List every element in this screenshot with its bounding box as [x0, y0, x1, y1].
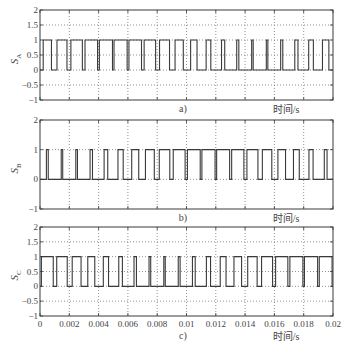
x-tick-label: 0.016	[264, 319, 285, 329]
y-axis-label: SC	[8, 270, 23, 281]
y-tick-label: 0.5	[27, 267, 39, 277]
y-tick-label: −1	[28, 311, 38, 321]
y-axis-label: SA	[8, 54, 23, 65]
y-tick-label: 0.5	[27, 50, 39, 60]
y-tick-label: −0.5	[22, 80, 39, 90]
x-tick-label: 0.018	[294, 319, 315, 329]
y-tick-label: 2	[34, 115, 39, 125]
y-tick-label: 2	[34, 222, 39, 232]
grid	[40, 120, 333, 209]
y-axis-label: SB	[8, 163, 23, 174]
x-axis-label: 时间/s	[273, 330, 300, 342]
panel-b: −1012SBb)时间/s	[8, 115, 333, 224]
panel-c: −1−0.500.511.5200.0020.0040.0060.0080.01…	[8, 222, 341, 342]
panel-label: a)	[179, 103, 187, 115]
pwm-switching-figure: −1−0.500.511.52SAa)时间/s−1012SBb)时间/s−1−0…	[0, 0, 350, 354]
y-tick-label: 1	[34, 252, 39, 262]
y-tick-label: 0	[34, 281, 39, 291]
x-tick-label: 0.008	[147, 319, 168, 329]
y-tick-label: 0	[34, 65, 39, 75]
y-tick-label: −1	[28, 204, 38, 214]
x-tick-label: 0.006	[118, 319, 139, 329]
x-tick-label: 0.01	[179, 319, 195, 329]
panel-a: −1−0.500.511.52SAa)时间/s	[8, 5, 333, 115]
panel-label: c)	[179, 330, 187, 342]
grid	[40, 10, 333, 100]
y-tick-label: 1	[34, 35, 39, 45]
y-tick-label: 0	[34, 174, 39, 184]
x-tick-label: 0.002	[59, 319, 79, 329]
x-axis-label: 时间/s	[273, 212, 300, 224]
x-axis-label: 时间/s	[273, 103, 300, 115]
x-tick-label: 0.012	[206, 319, 226, 329]
y-tick-label: 2	[34, 5, 39, 15]
panel-label: b)	[179, 212, 187, 224]
y-tick-label: 1.5	[27, 237, 39, 247]
y-tick-label: 1	[34, 145, 39, 155]
x-tick-label: 0	[38, 319, 43, 329]
x-tick-label: 0.02	[325, 319, 341, 329]
y-tick-label: −1	[28, 95, 38, 105]
x-tick-label: 0.014	[235, 319, 256, 329]
grid	[40, 227, 333, 316]
y-tick-label: −0.5	[22, 296, 39, 306]
x-tick-label: 0.004	[88, 319, 109, 329]
y-tick-label: 1.5	[27, 20, 39, 30]
